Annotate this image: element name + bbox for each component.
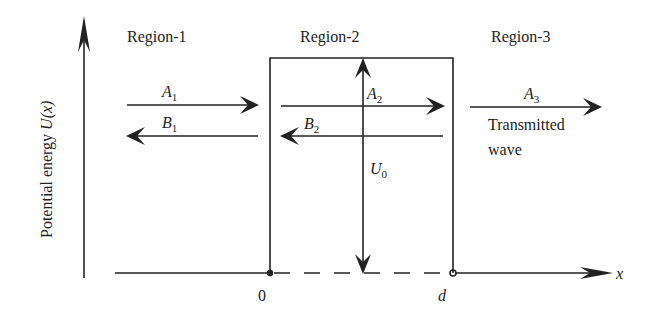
svg-text:B2: B2: [304, 115, 319, 135]
svg-text:A2: A2: [366, 85, 382, 105]
y-axis: [78, 16, 90, 278]
barrier-height-label: U0: [370, 160, 388, 180]
tick-zero: 0: [258, 287, 266, 304]
wave-A1: A1: [127, 83, 259, 114]
wave-A3: A3: [470, 85, 602, 116]
svg-text:A1: A1: [161, 83, 177, 103]
x-axis-label: x: [615, 265, 623, 282]
y-axis-label: Potential energy U(x): [38, 101, 56, 238]
potential-barrier-diagram: Potential energy U(x) x 0 d Region-1 Reg…: [0, 0, 650, 322]
region-3-label: Region-3: [491, 28, 551, 46]
region-2-label: Region-2: [300, 28, 360, 46]
region-1-label: Region-1: [127, 28, 187, 46]
wave-B1: B1: [126, 114, 258, 145]
svg-text:B1: B1: [162, 114, 177, 134]
tick-d: d: [438, 287, 447, 304]
transmitted-label: Transmitted: [488, 116, 565, 133]
potential-barrier: [270, 58, 453, 273]
wave-label: wave: [488, 141, 522, 158]
wave-B2: B2: [280, 115, 443, 145]
svg-text:A3: A3: [523, 85, 540, 105]
